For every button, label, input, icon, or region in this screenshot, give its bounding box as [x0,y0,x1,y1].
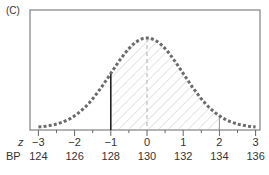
bp-tick-label: 124 [29,150,47,162]
z-tick-label: −2 [68,136,81,148]
z-tick-label: 0 [144,136,150,148]
bp-tick-label: 130 [138,150,156,162]
z-axis-label: z [18,136,24,148]
z-tick-label: 3 [253,136,259,148]
plot-area [30,10,260,136]
z-tick-label: 2 [216,136,222,148]
normal-curve-chart [0,0,269,175]
bp-tick-label: 128 [102,150,120,162]
z-tick-label: −1 [105,136,118,148]
bp-tick-label: 134 [210,150,228,162]
z-tick-label: 1 [180,136,186,148]
bp-tick-label: 132 [174,150,192,162]
z-tick-label: −3 [32,136,45,148]
bp-axis-label: BP [6,150,21,162]
bp-tick-label: 136 [246,150,264,162]
bp-tick-label: 126 [65,150,83,162]
